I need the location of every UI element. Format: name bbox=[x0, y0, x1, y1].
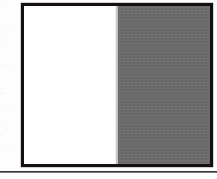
two-tone-swatch-frame bbox=[21, 3, 213, 167]
figure-canvas bbox=[0, 0, 217, 179]
horizontal-rule-below-figure bbox=[0, 171, 217, 173]
swatch-panel-gray bbox=[118, 6, 210, 164]
swatch-panel-white bbox=[24, 6, 118, 164]
